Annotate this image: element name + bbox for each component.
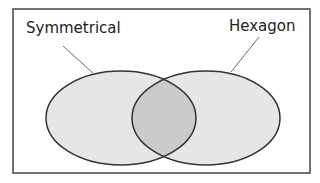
venn-diagram: Symmetrical Hexagon [0, 0, 320, 183]
label-symmetrical: Symmetrical [26, 19, 121, 37]
label-hexagon: Hexagon [229, 17, 296, 35]
